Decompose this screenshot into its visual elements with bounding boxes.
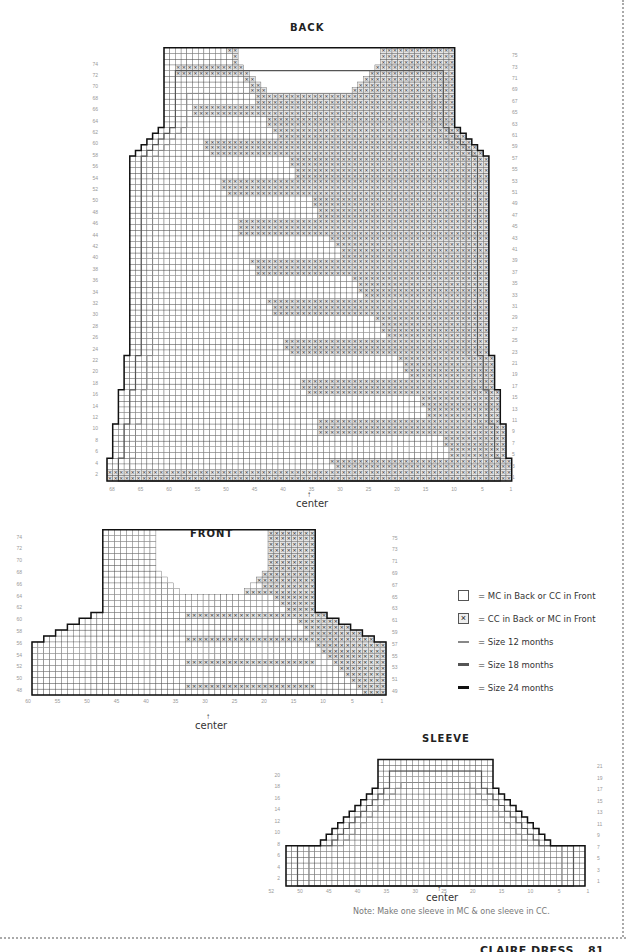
svg-text:×: ×	[450, 298, 454, 304]
svg-text:×: ×	[381, 304, 385, 310]
svg-text:×: ×	[341, 116, 345, 122]
svg-text:×: ×	[376, 384, 380, 390]
svg-text:×: ×	[347, 463, 351, 469]
thin-line-icon	[458, 641, 469, 643]
svg-text:×: ×	[410, 213, 414, 219]
svg-text:×: ×	[421, 104, 425, 110]
svg-text:38: 38	[92, 266, 98, 272]
svg-text:×: ×	[364, 150, 368, 156]
svg-text:×: ×	[370, 292, 374, 298]
svg-text:×: ×	[330, 424, 334, 430]
svg-text:×: ×	[387, 76, 391, 82]
svg-text:×: ×	[444, 207, 448, 213]
svg-text:×: ×	[478, 173, 482, 179]
svg-text:×: ×	[304, 553, 308, 559]
svg-text:×: ×	[245, 612, 249, 618]
svg-text:×: ×	[467, 475, 471, 481]
svg-text:×: ×	[421, 463, 425, 469]
svg-text:×: ×	[131, 469, 135, 475]
svg-text:×: ×	[387, 184, 391, 190]
svg-text:×: ×	[353, 87, 357, 93]
svg-text:×: ×	[336, 144, 340, 150]
svg-text:×: ×	[319, 116, 323, 122]
svg-text:×: ×	[275, 571, 279, 577]
svg-text:×: ×	[416, 458, 420, 464]
svg-text:×: ×	[427, 64, 431, 70]
svg-text:×: ×	[421, 173, 425, 179]
svg-text:×: ×	[256, 99, 260, 105]
svg-text:×: ×	[444, 99, 448, 105]
svg-text:×: ×	[438, 344, 442, 350]
svg-text:×: ×	[455, 452, 459, 458]
svg-text:×: ×	[455, 475, 459, 481]
svg-text:×: ×	[484, 378, 488, 384]
empty-square-icon	[458, 590, 469, 601]
svg-text:×: ×	[450, 150, 454, 156]
svg-text:×: ×	[182, 475, 186, 481]
svg-text:×: ×	[319, 173, 323, 179]
svg-text:×: ×	[279, 110, 283, 116]
svg-text:×: ×	[284, 104, 288, 110]
svg-text:×: ×	[304, 535, 308, 541]
svg-text:×: ×	[478, 469, 482, 475]
svg-text:×: ×	[398, 281, 402, 287]
svg-text:×: ×	[319, 218, 323, 224]
svg-text:×: ×	[410, 310, 414, 316]
svg-text:×: ×	[421, 281, 425, 287]
svg-text:×: ×	[286, 600, 290, 606]
svg-text:×: ×	[286, 559, 290, 565]
svg-text:×: ×	[302, 144, 306, 150]
svg-text:×: ×	[393, 196, 397, 202]
svg-text:×: ×	[330, 264, 334, 270]
svg-text:×: ×	[387, 475, 391, 481]
svg-text:×: ×	[319, 127, 323, 133]
svg-text:×: ×	[345, 671, 349, 677]
svg-text:×: ×	[444, 435, 448, 441]
svg-text:×: ×	[410, 139, 414, 145]
svg-text:×: ×	[375, 648, 379, 654]
svg-text:×: ×	[398, 292, 402, 298]
svg-text:×: ×	[345, 630, 349, 636]
svg-text:×: ×	[176, 475, 180, 481]
svg-text:×: ×	[461, 190, 465, 196]
svg-text:×: ×	[478, 321, 482, 327]
svg-text:×: ×	[324, 418, 328, 424]
svg-text:×: ×	[256, 264, 260, 270]
svg-text:×: ×	[330, 127, 334, 133]
svg-text:×: ×	[438, 424, 442, 430]
svg-text:×: ×	[467, 361, 471, 367]
svg-text:×: ×	[324, 104, 328, 110]
svg-text:×: ×	[210, 636, 214, 642]
svg-text:×: ×	[292, 571, 296, 577]
svg-text:×: ×	[438, 475, 442, 481]
svg-text:×: ×	[347, 253, 351, 259]
svg-text:×: ×	[467, 161, 471, 167]
svg-text:×: ×	[438, 99, 442, 105]
svg-text:×: ×	[364, 178, 368, 184]
svg-text:×: ×	[427, 241, 431, 247]
svg-text:62: 62	[16, 604, 22, 610]
svg-text:×: ×	[478, 458, 482, 464]
svg-text:×: ×	[438, 287, 442, 293]
svg-text:×: ×	[336, 167, 340, 173]
svg-text:×: ×	[484, 224, 488, 230]
svg-text:×: ×	[433, 401, 437, 407]
svg-text:×: ×	[298, 589, 302, 595]
svg-text:×: ×	[387, 253, 391, 259]
svg-text:×: ×	[416, 344, 420, 350]
svg-text:×: ×	[292, 612, 296, 618]
svg-text:×: ×	[347, 298, 351, 304]
svg-text:×: ×	[281, 547, 285, 553]
svg-text:×: ×	[307, 349, 311, 355]
svg-text:×: ×	[304, 559, 308, 565]
svg-text:×: ×	[433, 292, 437, 298]
svg-text:×: ×	[467, 389, 471, 395]
svg-text:×: ×	[461, 218, 465, 224]
svg-text:×: ×	[307, 178, 311, 184]
svg-text:×: ×	[359, 338, 363, 344]
svg-text:×: ×	[307, 133, 311, 139]
svg-text:×: ×	[313, 378, 317, 384]
svg-text:×: ×	[467, 184, 471, 190]
svg-text:×: ×	[393, 458, 397, 464]
svg-text:×: ×	[416, 310, 420, 316]
